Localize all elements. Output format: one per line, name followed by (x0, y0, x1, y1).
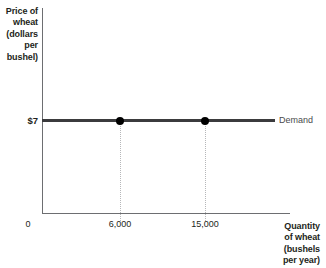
data-point-6000 (116, 117, 124, 125)
origin-label: 0 (18, 219, 38, 229)
y-axis-title: Price of wheat (dollars per bushel) (0, 6, 38, 63)
drop-line-15000 (205, 122, 207, 221)
demand-curve-line (42, 119, 275, 122)
x-axis-title: Quantity of wheat (bushels per year) (240, 221, 324, 267)
demand-curve-label: Demand (279, 115, 313, 125)
data-point-15000 (201, 117, 209, 125)
drop-line-6000 (120, 122, 122, 221)
x-axis-tick-6000: 6,000 (90, 219, 150, 229)
plot-area (42, 8, 290, 213)
y-axis-tick-price: $7 (8, 115, 38, 126)
demand-curve-chart: Price of wheat (dollars per bushel) Dema… (0, 0, 326, 268)
x-axis-tick-15000: 15,000 (175, 219, 235, 229)
